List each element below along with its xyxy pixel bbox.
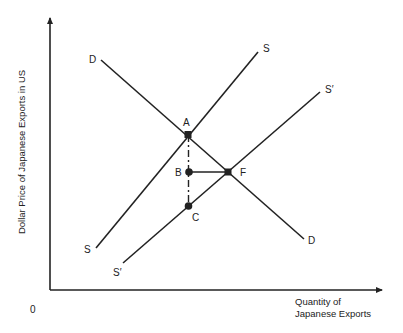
supply-demand-diagram: Dollar Price of Japanese Exports in US Q… <box>0 0 403 333</box>
origin-label: 0 <box>30 304 36 315</box>
x-axis-label-line1: Quantity of <box>295 296 341 307</box>
demand-start-label: D <box>89 54 96 65</box>
point-a-marker <box>185 131 192 138</box>
point-b-marker <box>185 168 193 176</box>
point-b-label: B <box>175 167 182 178</box>
point-f-label: F <box>240 167 246 178</box>
supply-end-label: S <box>263 43 270 54</box>
supply-curve <box>96 52 258 248</box>
shifted-supply-curve <box>123 92 320 263</box>
y-axis-label: Dollar Price of Japanese Exports in US <box>16 70 27 234</box>
x-axis-label-line2: Japanese Exports <box>295 308 371 319</box>
shifted-supply-end-label: S′ <box>325 84 334 95</box>
point-c-label: C <box>192 212 199 223</box>
point-f-marker <box>225 169 232 176</box>
point-c-marker <box>185 202 193 210</box>
demand-curve <box>101 60 304 239</box>
point-a-label: A <box>183 117 190 128</box>
shifted-supply-start-label: S′ <box>113 267 122 278</box>
demand-end-label: D <box>308 235 315 246</box>
supply-start-label: S <box>84 244 91 255</box>
